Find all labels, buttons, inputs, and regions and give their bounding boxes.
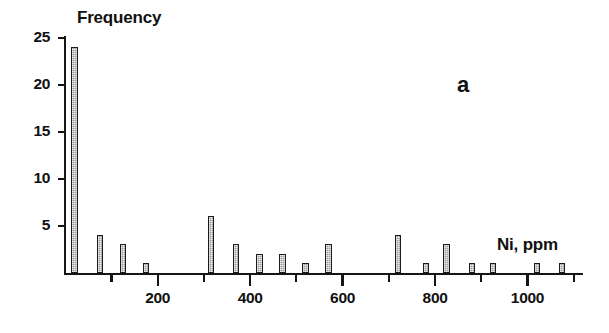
x-axis-title: Ni, ppm (497, 235, 558, 255)
figure-panel-a: 510152025 2004006008001000 Frequency Ni,… (0, 0, 609, 333)
histogram-bar (256, 254, 262, 273)
x-tick-label-1000: 1000 (493, 289, 563, 307)
histogram-bar (71, 47, 77, 272)
bar-series (0, 0, 609, 274)
x-tick-600 (341, 275, 343, 286)
x-minor-tick-100 (110, 275, 112, 282)
histogram-bar (490, 263, 496, 272)
x-minor-tick-500 (295, 275, 297, 282)
histogram-bar (302, 263, 308, 272)
histogram-bar (443, 244, 449, 272)
histogram-plot: 510152025 2004006008001000 Frequency Ni,… (0, 0, 609, 333)
histogram-bar (97, 235, 103, 273)
histogram-bar (325, 244, 331, 272)
y-axis-title: Frequency (77, 8, 161, 28)
histogram-bar (469, 263, 475, 272)
x-tick-label-800: 800 (400, 289, 470, 307)
x-minor-tick-700 (388, 275, 390, 282)
histogram-bar (120, 244, 126, 272)
x-minor-tick-1100 (573, 275, 575, 282)
histogram-bar (233, 244, 239, 272)
histogram-bar (534, 263, 540, 272)
x-tick-label-600: 600 (308, 289, 378, 307)
x-tick-200 (157, 275, 159, 286)
x-tick-800 (434, 275, 436, 286)
histogram-bar (208, 216, 214, 272)
x-minor-tick-300 (203, 275, 205, 282)
histogram-bar (395, 235, 401, 273)
x-tick-label-200: 200 (123, 289, 193, 307)
x-tick-1000 (526, 275, 528, 286)
panel-label: a (457, 72, 469, 98)
x-tick-label-400: 400 (215, 289, 285, 307)
histogram-bar (143, 263, 149, 272)
x-minor-tick-900 (480, 275, 482, 282)
histogram-bar (423, 263, 429, 272)
histogram-bar (559, 263, 565, 272)
histogram-bar (279, 254, 285, 273)
x-tick-400 (249, 275, 251, 286)
